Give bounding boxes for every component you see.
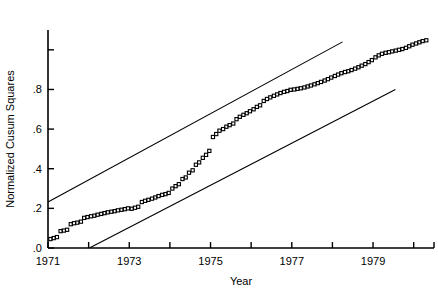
- data-point: [380, 52, 383, 55]
- data-point: [116, 209, 119, 212]
- data-point: [340, 72, 343, 75]
- data-point: [401, 47, 404, 50]
- data-point: [279, 91, 282, 94]
- data-point: [259, 104, 262, 107]
- data-point: [391, 50, 394, 53]
- data-point: [66, 228, 69, 231]
- data-point: [319, 80, 322, 83]
- data-point: [228, 124, 231, 127]
- data-point: [309, 84, 312, 87]
- data-point: [55, 236, 58, 239]
- data-point: [238, 115, 241, 118]
- x-tick-label: 1979: [361, 255, 385, 267]
- data-point: [350, 68, 353, 71]
- data-point: [76, 221, 79, 224]
- data-point: [177, 183, 180, 186]
- data-point: [370, 59, 373, 62]
- data-point: [147, 198, 150, 201]
- y-tick-label: .6: [33, 123, 42, 135]
- y-axis-title: Normalized Cusum Squares: [4, 70, 16, 208]
- y-tick-label: .8: [33, 83, 42, 95]
- data-point: [269, 96, 272, 99]
- y-tick-label: .2: [33, 202, 42, 214]
- data-point: [191, 169, 194, 172]
- data-point: [184, 176, 187, 179]
- data-point: [167, 191, 170, 194]
- data-point: [198, 161, 201, 164]
- data-point: [360, 64, 363, 67]
- data-point: [208, 149, 211, 152]
- y-axis-ticks: .0.2.4.6.8: [33, 50, 54, 254]
- data-point: [299, 87, 302, 90]
- data-point: [157, 194, 160, 197]
- data-point: [330, 76, 333, 79]
- data-point: [86, 215, 89, 218]
- x-tick-label: 1973: [117, 255, 141, 267]
- x-axis-ticks: 19711973197519771979: [36, 242, 434, 267]
- axes-group: [48, 30, 434, 248]
- data-point: [106, 211, 109, 214]
- data-point: [126, 207, 129, 210]
- data-point: [187, 171, 190, 174]
- chart-canvas: 19711973197519771979 .0.2.4.6.8 Year Nor…: [0, 0, 438, 290]
- data-point-group: [49, 39, 428, 241]
- data-point: [215, 132, 218, 135]
- x-tick-label: 1975: [198, 255, 222, 267]
- x-axis-title: Year: [230, 275, 253, 287]
- upper-confidence-bound: [48, 42, 343, 202]
- x-tick-label: 1971: [36, 255, 60, 267]
- cusum-squares-chart: 19711973197519771979 .0.2.4.6.8 Year Nor…: [0, 0, 438, 290]
- data-point: [218, 129, 221, 132]
- data-point: [248, 110, 251, 113]
- data-point: [204, 153, 207, 156]
- data-point: [421, 40, 424, 43]
- y-tick-label: .0: [33, 242, 42, 254]
- data-point: [137, 205, 140, 208]
- data-point: [425, 39, 428, 42]
- data-point: [232, 122, 235, 125]
- data-point: [289, 88, 292, 91]
- y-tick-label: .4: [33, 163, 42, 175]
- x-tick-label: 1977: [280, 255, 304, 267]
- data-point: [96, 213, 99, 216]
- data-point: [411, 43, 414, 46]
- data-point: [79, 220, 82, 223]
